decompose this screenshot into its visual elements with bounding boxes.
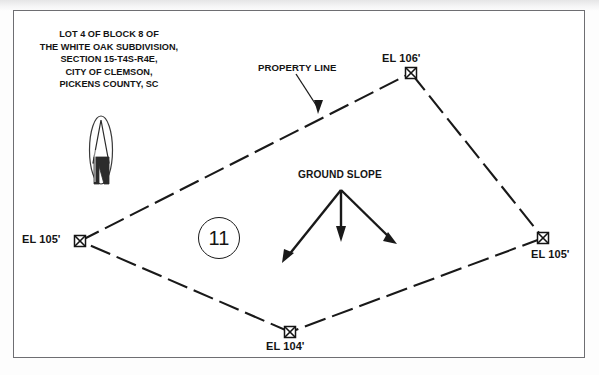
survey-plat-page: LOT 4 OF BLOCK 8 OF THE WHITE OAK SUBDIV… xyxy=(0,0,599,375)
elevation-label-west: EL 105' xyxy=(22,233,61,245)
corner-monuments xyxy=(75,68,549,338)
boundary-edge-north-east xyxy=(411,73,543,238)
corner-monument-east xyxy=(538,233,549,244)
elevation-label-north: EL 106' xyxy=(382,52,421,64)
boundary-edge-east-south xyxy=(290,238,543,332)
property-boundary-lines xyxy=(80,73,543,332)
elevation-label-south: EL 104' xyxy=(266,340,305,352)
corner-monument-north xyxy=(406,68,417,79)
ground-slope-arrows xyxy=(282,190,397,263)
ground-slope-arrow-center xyxy=(336,190,346,242)
plat-vector-layer xyxy=(0,0,599,375)
boundary-edge-west-north xyxy=(80,73,411,241)
property-line-leader xyxy=(296,74,323,114)
north-arrow-symbol xyxy=(90,116,113,184)
property-line-label: PROPERTY LINE xyxy=(258,62,336,73)
elevation-label-east: EL 105' xyxy=(531,248,570,260)
corner-monument-south xyxy=(285,327,296,338)
ground-slope-arrow-left xyxy=(282,190,341,263)
ground-slope-label: GROUND SLOPE xyxy=(298,169,382,180)
ground-slope-arrow-right xyxy=(341,190,397,244)
boundary-edge-south-west xyxy=(80,241,290,332)
property-line-arrowhead xyxy=(314,100,323,114)
lot-number-badge: 11 xyxy=(198,217,240,259)
corner-monument-west xyxy=(75,236,86,247)
